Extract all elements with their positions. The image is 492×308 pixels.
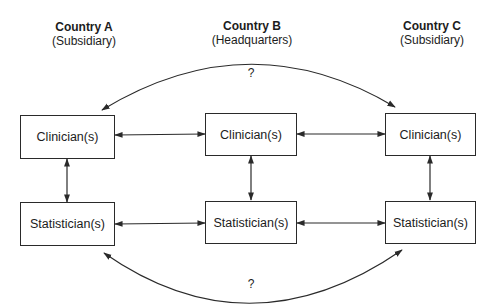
arc-bottom-label: ? [241,277,261,291]
statistician-c-box: Statistician(s) [385,201,476,244]
clinician-b-box: Clinician(s) [205,113,297,156]
clinician-a-box: Clinician(s) [20,115,115,159]
clinician-c-box: Clinician(s) [385,113,476,156]
statistician-b-box: Statistician(s) [205,201,297,244]
arrow-statistician-a-b [115,223,205,224]
arc-top-label: ? [241,66,261,80]
statistician-a-box: Statistician(s) [20,202,115,246]
arrow-clinician-a-b [115,134,205,135]
